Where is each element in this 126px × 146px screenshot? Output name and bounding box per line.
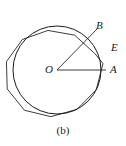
label-midpoint-e: E — [111, 42, 118, 53]
label-tangent-point-a: A — [110, 64, 117, 75]
label-center-o: O — [45, 64, 53, 75]
radius-line-OB — [57, 29, 97, 70]
circumscribed-polygon — [6, 30, 103, 116]
label-vertex-b: B — [96, 20, 103, 31]
geometry-figure: B E A O (b) — [0, 0, 126, 146]
figure-caption: (b) — [0, 124, 126, 136]
